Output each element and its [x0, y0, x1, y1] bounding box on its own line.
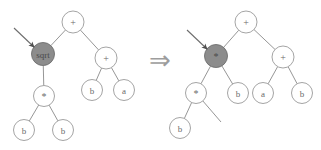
- tree-node[interactable]: b: [14, 120, 35, 141]
- tree-node[interactable]: b: [228, 83, 249, 104]
- before-tree: +sqrt+*babb: [14, 11, 135, 141]
- tree-node-label: b: [90, 86, 95, 96]
- tree-edge: [111, 68, 118, 81]
- tree-node-label: sqrt: [36, 50, 50, 60]
- tree-edge: [80, 30, 98, 50]
- tree-edge: [29, 105, 38, 121]
- implies-symbol: ⇒: [149, 46, 171, 75]
- tree-node[interactable]: b: [82, 80, 103, 101]
- tree-node[interactable]: *: [205, 45, 228, 68]
- tree-edge: [224, 30, 239, 47]
- tree-node-label: *: [42, 91, 47, 102]
- tree-node-label: *: [194, 88, 199, 99]
- tree-node-label: b: [22, 126, 27, 136]
- tree-edge: [254, 30, 275, 50]
- tree-node-label: b: [236, 89, 241, 99]
- tree-node[interactable]: +: [62, 11, 84, 33]
- selection-arrow-shaft: [14, 28, 34, 47]
- tree-node[interactable]: b: [292, 83, 313, 104]
- tree-node[interactable]: *: [186, 83, 207, 104]
- tree-edge: [96, 68, 101, 80]
- tree-edge: [222, 66, 233, 84]
- expression-tree-diagram: +sqrt+*babb ⇒ +*+*babb: [0, 0, 321, 150]
- after-tree-nodes: +*+*babb: [170, 11, 313, 139]
- tree-canvas: +sqrt+*babb ⇒ +*+*babb: [0, 0, 321, 150]
- tree-node-label: +: [243, 17, 249, 28]
- tree-node-label: +: [103, 53, 109, 64]
- tree-node-label: a: [261, 89, 265, 99]
- tree-node[interactable]: +: [95, 47, 117, 69]
- before-tree-selection-arrow-icon: [14, 28, 34, 47]
- tree-node[interactable]: +: [235, 11, 257, 33]
- tree-edge-dangling: [203, 101, 221, 122]
- tree-edge: [51, 30, 66, 46]
- tree-node-label: +: [70, 17, 76, 28]
- tree-node[interactable]: *: [34, 86, 55, 107]
- implies-arrow-icon: ⇒: [149, 46, 171, 75]
- tree-node[interactable]: b: [170, 118, 191, 139]
- tree-node[interactable]: a: [253, 83, 274, 104]
- tree-edge: [49, 105, 58, 121]
- tree-node-label: b: [178, 124, 183, 134]
- after-tree-selection-arrow-icon: [187, 30, 207, 49]
- tree-node-label: +: [280, 52, 286, 63]
- tree-node[interactable]: a: [114, 80, 135, 101]
- tree-node[interactable]: b: [53, 120, 74, 141]
- tree-node[interactable]: +: [272, 46, 294, 68]
- tree-node-label: b: [300, 89, 305, 99]
- after-tree: +*+*babb: [170, 11, 313, 139]
- tree-edge: [201, 66, 211, 84]
- tree-node-label: *: [214, 51, 219, 62]
- tree-node-label: b: [61, 126, 66, 136]
- selection-arrow-shaft: [187, 30, 207, 49]
- tree-edge: [268, 67, 278, 84]
- tree-node[interactable]: sqrt: [32, 43, 55, 66]
- tree-node-label: a: [122, 86, 126, 96]
- tree-edge: [184, 103, 191, 119]
- tree-edge: [288, 67, 297, 84]
